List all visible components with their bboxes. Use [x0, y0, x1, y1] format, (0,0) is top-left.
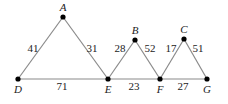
weight-F-C: 17 — [166, 42, 178, 54]
vertex-C — [181, 36, 186, 41]
vertex-F — [157, 76, 162, 81]
vertex-label-E: E — [104, 83, 112, 95]
vertex-B — [132, 37, 137, 42]
vertex-G — [204, 76, 209, 81]
weighted-graph-diagram: A B C D E F G 41 31 71 28 52 23 17 51 27 — [0, 0, 228, 104]
vertex-label-F: F — [156, 83, 164, 95]
weight-D-E: 71 — [57, 80, 68, 92]
vertex-label-C: C — [180, 23, 188, 35]
edge-A-D — [18, 17, 63, 79]
weight-A-E: 31 — [87, 42, 98, 54]
vertex-A — [60, 14, 65, 19]
vertex-E — [105, 76, 110, 81]
vertex-D — [15, 76, 20, 81]
vertex-label-B: B — [132, 24, 139, 36]
vertex-label-G: G — [203, 83, 211, 95]
weight-E-F: 23 — [129, 80, 141, 92]
weight-B-F: 52 — [145, 42, 156, 54]
vertex-label-A: A — [59, 1, 67, 13]
edge-A-E — [63, 17, 108, 79]
vertex-label-D: D — [13, 83, 22, 95]
weight-F-G: 27 — [178, 80, 190, 92]
weight-E-B: 28 — [115, 42, 127, 54]
weight-A-D: 41 — [28, 42, 39, 54]
weight-C-G: 51 — [193, 42, 204, 54]
